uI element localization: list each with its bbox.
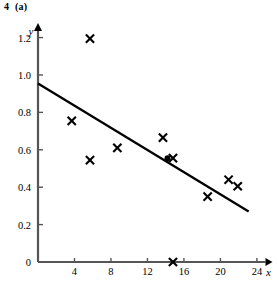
mean-point-marker <box>165 155 171 161</box>
x-axis-name: x <box>265 266 271 278</box>
x-axis-tick-label: 16 <box>179 266 190 277</box>
data-point-cross-marker <box>86 34 94 42</box>
ticks-layer: 481216202400.20.40.60.81.01.2 <box>18 33 263 277</box>
regression-line <box>38 83 249 211</box>
data-point-cross-marker <box>68 117 76 125</box>
x-axis-tick-label: 20 <box>215 266 226 277</box>
data-point-cross-marker <box>86 156 94 164</box>
x-axis-tick-label: 24 <box>252 266 263 277</box>
figure-container: 4 (a) 481216202400.20.40.60.81.01.2 yx <box>0 0 278 300</box>
axes-layer <box>34 23 272 266</box>
scatter-plot: 481216202400.20.40.60.81.01.2 yx <box>0 0 278 300</box>
data-point-cross-marker <box>159 134 167 142</box>
y-axis-tick-label: 0.6 <box>18 145 31 156</box>
y-axis-name: y <box>28 25 34 37</box>
y-axis-tick-label: 0.4 <box>18 182 32 193</box>
data-point-cross-marker <box>204 192 212 200</box>
x-axis-tick-label: 4 <box>72 266 78 277</box>
x-axis-tick-label: 8 <box>108 266 113 277</box>
data-point-cross-marker <box>234 182 242 190</box>
y-axis-tick-label: 1.0 <box>18 70 31 81</box>
data-points-layer <box>68 34 242 266</box>
y-axis-tick-label: 0.8 <box>18 107 31 118</box>
y-axis-tick-label: 0.2 <box>18 220 31 231</box>
regression-line-layer <box>38 83 249 211</box>
data-point-cross-marker <box>113 144 121 152</box>
y-axis-arrow-icon <box>34 23 42 31</box>
y-axis-tick-label: 0 <box>26 257 31 268</box>
x-axis-tick-label: 12 <box>142 266 153 277</box>
x-axis-arrow-icon <box>265 258 272 266</box>
data-point-cross-marker <box>225 176 233 184</box>
